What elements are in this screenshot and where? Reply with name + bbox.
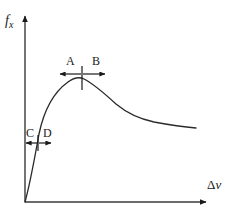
plot-canvas: [0, 0, 242, 215]
figure-container: fx Δv A B C D: [0, 0, 242, 215]
region-c-label: C: [26, 127, 34, 139]
region-a-label: A: [66, 55, 75, 67]
y-axis-label-subscript: x: [9, 19, 13, 30]
x-axis-label-var: v: [215, 177, 221, 192]
x-axis-label: Δv: [207, 178, 221, 191]
y-axis-label: fx: [5, 14, 13, 30]
region-b-label: B: [92, 55, 100, 67]
region-d-label: D: [43, 127, 52, 139]
